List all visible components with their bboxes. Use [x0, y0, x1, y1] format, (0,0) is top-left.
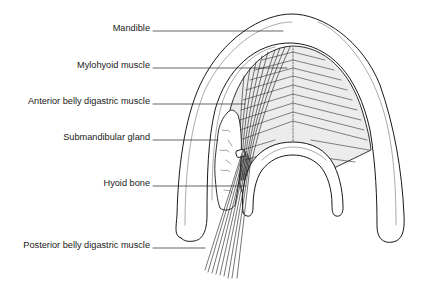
label-mylohyoid-muscle: Mylohyoid muscle [77, 60, 150, 71]
label-anterior-belly-digastric: Anterior belly digastric muscle [28, 96, 150, 107]
label-hyoid-bone: Hyoid bone [104, 178, 150, 189]
label-mandible: Mandible [113, 23, 150, 34]
label-submandibular-gland: Submandibular gland [63, 132, 150, 143]
label-layer: Mandible Mylohyoid muscle Anterior belly… [0, 0, 430, 295]
label-posterior-belly-digastric: Posterior belly digastric muscle [23, 240, 150, 251]
